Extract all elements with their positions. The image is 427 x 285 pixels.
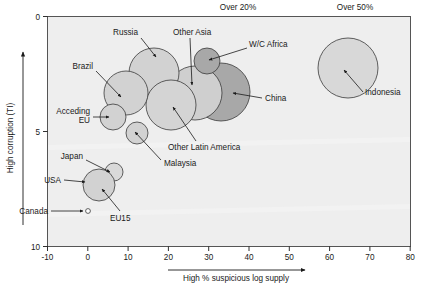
callout-label-eu: EU: [79, 116, 90, 125]
bubble-chart-figure: Over 20% Over 50% 0 5 10 High corruption…: [0, 0, 427, 285]
x-tick-label-10: 10: [124, 253, 134, 262]
x-tick-label-30: 30: [204, 253, 214, 262]
bubble-other-latin-america[interactable]: [146, 80, 196, 130]
x-axis-title: High % suspicious log supply: [183, 274, 290, 283]
bubble-malaysia[interactable]: [126, 122, 148, 144]
x-tick-label-80: 80: [406, 253, 416, 262]
callout-label-canada: Canada: [19, 207, 48, 216]
callout-label-china: China: [265, 94, 287, 103]
band-label-over50: Over 50%: [337, 3, 373, 12]
x-tick-label-40: 40: [244, 253, 254, 262]
y-axis-title: High corruption (TI): [6, 102, 15, 173]
callout-label-indonesia: Indonesia: [365, 88, 401, 97]
callout-label-brazil: Brazil: [73, 62, 94, 71]
band-label-over20: Over 20%: [220, 3, 256, 12]
bubble-eu15[interactable]: [83, 169, 115, 201]
x-tick-label-50: 50: [285, 253, 295, 262]
callout-label-wc-africa: W/C Africa: [249, 40, 288, 49]
bubble-wc-africa[interactable]: [194, 48, 220, 74]
x-axis: -10 0 10 20 30 40 50 60 70 80 High % sus…: [42, 247, 416, 284]
callout-label-usa: USA: [44, 176, 61, 185]
callout-label-malaysia: Malaysia: [164, 159, 197, 168]
x-tick-label-70: 70: [365, 253, 375, 262]
chart-canvas: Over 20% Over 50% 0 5 10 High corruption…: [0, 0, 427, 285]
bubble-canada[interactable]: [86, 209, 91, 214]
callout-label-eu15: EU15: [110, 214, 131, 223]
x-tick-label--10: -10: [42, 253, 54, 262]
y-tick-label-5: 5: [35, 128, 40, 137]
y-tick-label-10: 10: [31, 243, 41, 252]
y-tick-label-0: 0: [35, 13, 40, 22]
x-tick-label-0: 0: [86, 253, 91, 262]
callout-label-russia: Russia: [113, 28, 138, 37]
callout-label-other-asia: Other Asia: [173, 28, 212, 37]
callout-label-acceding: Acceding: [56, 107, 90, 116]
x-tick-label-60: 60: [325, 253, 335, 262]
callout-label-other-latin-america: Other Latin America: [168, 143, 241, 152]
callout-label-japan: Japan: [61, 152, 84, 161]
x-tick-label-20: 20: [164, 253, 174, 262]
